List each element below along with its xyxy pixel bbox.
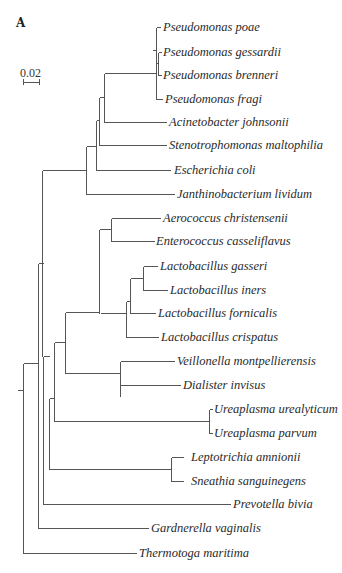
leaf-label: Acinetobacter johnsonii bbox=[168, 115, 289, 129]
leaf-label: Lactobacillus gasseri bbox=[159, 259, 268, 273]
leaf-label: Pseudomonas poae bbox=[162, 20, 260, 34]
leaf-label: Ureaplasma parvum bbox=[214, 426, 317, 440]
leaf-label: Aerococcus christensenii bbox=[162, 211, 288, 225]
leaf-label: Enterococcus casseliflavus bbox=[155, 234, 291, 248]
phylogenetic-tree: Pseudomonas poaePseudomonas gessardiiPse… bbox=[0, 0, 342, 573]
leaf-label: Leptotrichia amnionii bbox=[190, 450, 301, 464]
leaf-label: Gardnerella vaginalis bbox=[151, 521, 261, 535]
leaf-label: Dialister invisus bbox=[182, 378, 265, 392]
leaf-label: Veillonella montpellierensis bbox=[177, 354, 316, 368]
leaf-label: Lactobacillus crispatus bbox=[160, 330, 278, 344]
tree-leaves: Pseudomonas poaePseudomonas gessardiiPse… bbox=[139, 20, 338, 560]
leaf-label: Lactobacillus fornicalis bbox=[157, 306, 277, 320]
leaf-label: Pseudomonas gessardii bbox=[162, 45, 281, 59]
scale-bar bbox=[23, 79, 39, 85]
leaf-label: Prevotella bivia bbox=[232, 497, 313, 511]
leaf-label: Escherichia coli bbox=[173, 163, 256, 177]
leaf-label: Thermotoga maritima bbox=[139, 546, 249, 560]
leaf-label: Sneathia sanguinegens bbox=[191, 474, 306, 488]
leaf-label: Stenotrophomonas maltophilia bbox=[169, 138, 323, 152]
leaf-label: Pseudomonas brenneri bbox=[162, 68, 279, 82]
leaf-label: Pseudomonas fragi bbox=[164, 92, 262, 106]
leaf-label: Lactobacillus iners bbox=[169, 283, 266, 297]
leaf-label: Ureaplasma urealyticum bbox=[214, 402, 338, 416]
leaf-label: Janthinobacterium lividum bbox=[177, 187, 312, 201]
